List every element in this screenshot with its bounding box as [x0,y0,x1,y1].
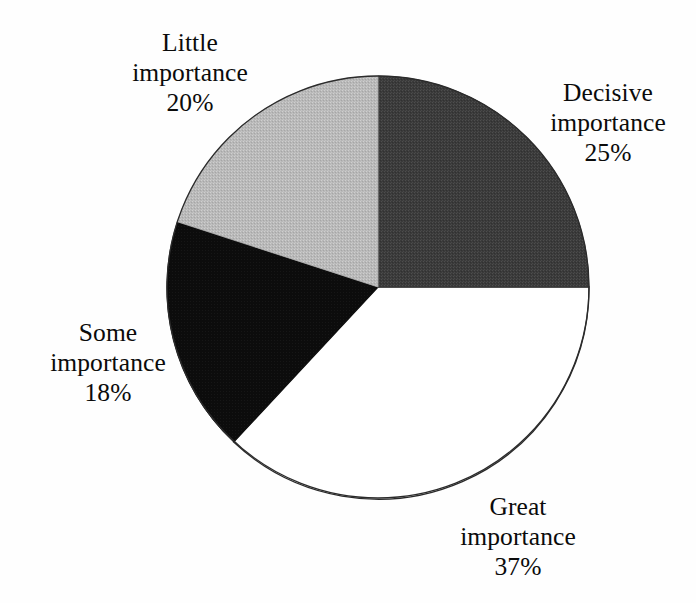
pie-label-great-importance-value: 37% [450,552,586,582]
pie-label-great-importance-line2: importance [450,522,586,552]
pie-label-little-importance-line2: importance [122,58,258,88]
pie-label-decisive-importance-line1: Decisive [540,78,676,108]
pie-label-decisive-importance: Decisive importance 25% [540,78,676,167]
pie-label-decisive-importance-value: 25% [540,138,676,168]
pie-label-some-importance-line1: Some [40,318,176,348]
pie-chart-figure: Little importance 20% Decisive importanc… [0,0,696,603]
pie-label-some-importance: Some importance 18% [40,318,176,407]
pie-label-some-importance-line2: importance [40,348,176,378]
pie-label-decisive-importance-line2: importance [540,108,676,138]
pie-label-little-importance-line1: Little [122,28,258,58]
pie-label-great-importance: Great importance 37% [450,492,586,581]
pie-label-little-importance-value: 20% [122,88,258,118]
pie-label-little-importance: Little importance 20% [122,28,258,117]
pie-label-great-importance-line1: Great [450,492,586,522]
pie-label-some-importance-value: 18% [40,378,176,408]
